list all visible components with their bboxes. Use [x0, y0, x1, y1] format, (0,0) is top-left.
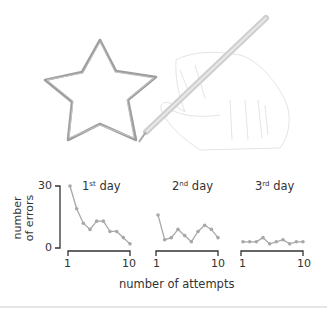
- data-point: [115, 230, 119, 234]
- data-point: [241, 240, 245, 244]
- day3-title-suffix: rd: [262, 180, 269, 188]
- day1-x-tick-end: 10: [122, 257, 136, 270]
- x-axis-day2: [156, 251, 218, 256]
- data-point: [216, 236, 220, 240]
- data-point: [163, 238, 167, 242]
- x-axis-label: number of attempts: [119, 277, 234, 291]
- data-point: [82, 221, 86, 225]
- star-icon: [45, 40, 156, 140]
- data-point: [68, 184, 72, 188]
- data-point: [190, 240, 194, 244]
- data-point: [170, 236, 174, 240]
- error-charts: number of errors 30 0 1st day 2nd day 3r…: [0, 170, 327, 309]
- day3-title-text: day: [270, 179, 295, 193]
- data-point: [75, 207, 79, 211]
- day2-title-suffix: nd: [179, 180, 188, 188]
- x-axis-day1: [68, 251, 130, 256]
- data-point: [248, 240, 252, 244]
- data-point: [88, 228, 92, 232]
- day2-x-tick-start: 1: [153, 257, 160, 270]
- data-point: [203, 223, 207, 227]
- series-day2: [156, 213, 220, 243]
- bottom-divider: [0, 306, 327, 308]
- data-point: [268, 242, 272, 246]
- data-point: [196, 230, 200, 234]
- day3-x-tick-start: 1: [239, 257, 246, 270]
- data-point: [122, 236, 126, 240]
- data-point: [275, 240, 279, 244]
- day3-x-tick-end: 10: [297, 257, 311, 270]
- star-drawing-illustration: [0, 0, 327, 170]
- data-point: [210, 228, 214, 232]
- data-point: [295, 240, 299, 244]
- day2-title-text: day: [188, 179, 213, 193]
- data-point: [95, 219, 99, 223]
- data-point: [255, 240, 259, 244]
- data-point: [102, 219, 106, 223]
- data-point: [288, 242, 292, 246]
- day1-title-text: day: [96, 179, 121, 193]
- day1-title: 1st day: [82, 179, 121, 193]
- x-axis-day3: [241, 251, 303, 256]
- day2-title: 2nd day: [172, 179, 213, 193]
- data-point: [176, 228, 180, 232]
- data-point: [108, 230, 112, 234]
- day2-x-tick-end: 10: [211, 257, 225, 270]
- data-point: [183, 234, 187, 238]
- series-day1: [68, 184, 132, 245]
- day3-title: 3rd day: [255, 179, 294, 193]
- series-day3: [241, 236, 305, 246]
- day1-x-tick-start: 1: [64, 257, 71, 270]
- data-point: [128, 242, 132, 246]
- y-axis: [55, 186, 60, 248]
- data-point: [156, 213, 160, 217]
- data-point: [281, 238, 285, 242]
- data-point: [261, 236, 265, 240]
- data-point: [301, 240, 305, 244]
